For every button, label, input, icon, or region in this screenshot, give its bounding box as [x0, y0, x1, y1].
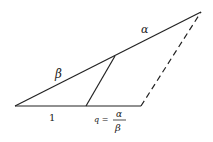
- similar-triangles-diagram: α β 1 q = α β: [0, 0, 213, 142]
- label-one: 1: [49, 112, 55, 123]
- inner-segment: [86, 56, 115, 106]
- q-lhs: q =: [94, 115, 108, 124]
- label-alpha: α: [141, 23, 149, 36]
- side-alpha-beta: [15, 12, 201, 106]
- q-numerator: α: [116, 109, 122, 119]
- label-q-formula: q = α β: [94, 109, 126, 133]
- label-beta: β: [54, 67, 62, 81]
- q-denominator: β: [114, 122, 121, 133]
- dashed-segment: [141, 12, 201, 106]
